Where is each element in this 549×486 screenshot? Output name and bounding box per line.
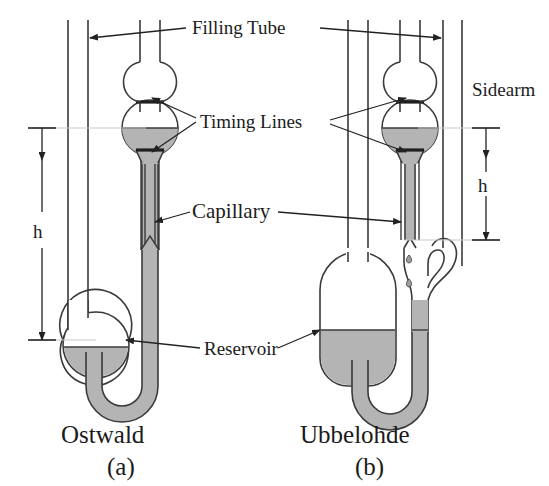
caption-ubbelohde: Ubbelohde [300,421,410,448]
label-filling-tube: Filling Tube [192,17,285,38]
caption-ostwald-sub: (a) [107,453,135,481]
ubbelohde-timing-bulb [382,100,438,164]
ostwald-left-limb [68,20,88,330]
ubbelohde-upper-bulb [384,20,437,102]
figure-canvas: Filling Tube Timing Lines Capillary Rese… [0,0,549,486]
label-height-left: h [33,221,43,242]
ubbelohde-suspended-level-junction [404,238,457,300]
label-timing-lines: Timing Lines [200,111,302,132]
label-height-right: h [478,175,488,196]
caption-ubbelohde-sub: (b) [355,453,384,481]
ubbelohde-right-limb-liquid [412,300,428,332]
capillary-leader-right [278,212,401,222]
droplet-upper [406,255,411,263]
ubbelohde-viscometer [312,20,462,430]
ostwald-timing-bulb [122,100,178,164]
caption-ostwald: Ostwald [61,421,145,448]
capillary-leader-left [155,212,190,222]
label-capillary: Capillary [192,199,271,223]
filling-tube-leader-left [90,28,186,38]
filling-tube-leader-right [320,28,441,38]
reservoir-leader-left [126,340,200,348]
label-sidearm: Sidearm [472,79,536,100]
label-reservoir: Reservoir [204,338,279,359]
ubbelohde-sidearm [443,20,462,266]
viscometer-diagram: Filling Tube Timing Lines Capillary Rese… [0,0,549,486]
droplet-lower [406,279,411,287]
